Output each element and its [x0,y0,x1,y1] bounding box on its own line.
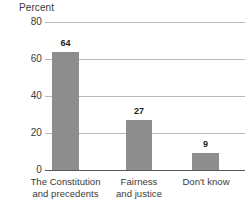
y-tick-label-0: 0 [2,164,42,175]
y-tick-label-40: 40 [2,90,42,101]
bar-chart: Percent 80 60 40 20 0 64 27 9 The Consti… [0,0,250,213]
bar-value-label-1: 64 [45,38,86,48]
x-category-label-2-line-1: Fairness [121,176,158,187]
bar-value-label-2: 27 [118,106,160,116]
y-tick-label-60: 60 [2,53,42,64]
bar-the-constitution-and-precedents[interactable] [52,52,79,170]
y-tick-label-80: 80 [2,16,42,27]
x-category-label-3-line-1: Don't know [182,176,229,187]
x-category-label-2: Fairness and justice [96,176,182,199]
gridline-80 [45,22,245,23]
x-category-label-1-line-1: The Constitution [31,176,101,187]
plot-area: 80 60 40 20 0 64 27 9 The Constitution a… [0,0,250,213]
x-category-label-3: Don't know [171,176,241,188]
bar-value-label-3: 9 [185,139,226,149]
bar-fairness-and-justice[interactable] [126,120,152,170]
bar-dont-know[interactable] [192,153,219,170]
x-axis-baseline [45,170,245,171]
x-category-label-2-line-2: and justice [96,188,182,200]
y-tick-label-20: 20 [2,127,42,138]
